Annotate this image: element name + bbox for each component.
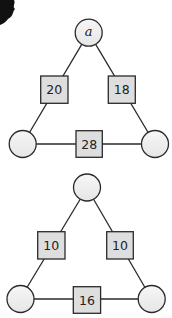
diagram-canvas: a 20 18 28: [0, 0, 172, 318]
box-right-edge-value: 10: [112, 238, 128, 253]
circle-right: [142, 131, 169, 158]
circle-left: [7, 286, 34, 313]
box-bottom-edge: 16: [73, 287, 100, 314]
box-left-edge-value: 20: [46, 82, 62, 97]
circle-top-label: a: [85, 24, 93, 39]
triangle-2: 10 10 16: [7, 174, 165, 313]
box-bottom-edge-value: 16: [79, 293, 95, 308]
triangle-1: a 20 18 28: [9, 19, 168, 157]
box-left-edge: 20: [41, 76, 68, 103]
box-right-edge-value: 18: [114, 82, 130, 97]
box-right-edge: 10: [107, 232, 134, 259]
circle-top: [74, 174, 101, 201]
circle-top: a: [75, 19, 102, 46]
box-bottom-edge: 28: [76, 131, 102, 158]
circle-left: [9, 131, 36, 158]
box-left-edge: 10: [38, 232, 65, 259]
ink-blot-decoration: [0, 0, 15, 25]
circle-right: [138, 286, 165, 313]
box-bottom-edge-value: 28: [81, 137, 97, 152]
box-left-edge-value: 10: [43, 238, 59, 253]
box-right-edge: 18: [108, 76, 135, 103]
